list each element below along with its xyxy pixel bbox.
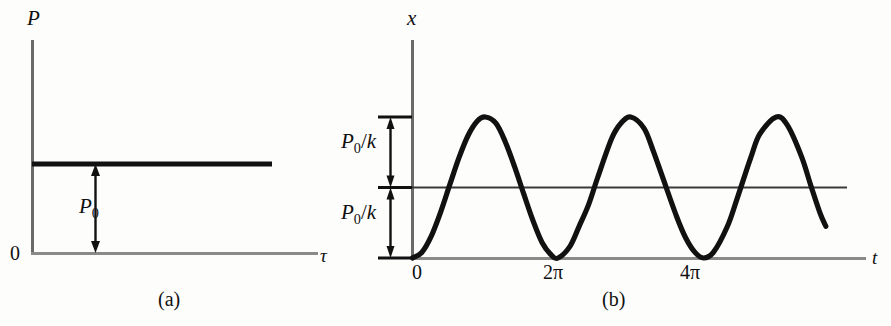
panel-b-xtick-4pi: 4π	[680, 262, 700, 282]
panel-b-graphics	[0, 0, 891, 326]
panel-b-upper-p0-over-k-label: P0/k	[341, 131, 376, 155]
panel-b-lower-k-symbol: k	[367, 200, 376, 224]
panel-b: x t 0 2π 4π P0/k P0/k (b)	[0, 0, 891, 326]
panel-b-x-axis-label: t	[872, 248, 877, 267]
panel-b-upper-p-symbol: P	[341, 129, 354, 153]
panel-b-upper-p-subscript: 0	[354, 140, 361, 156]
panel-b-y-axis-label: x	[407, 8, 416, 29]
panel-b-xtick-2pi: 2π	[543, 262, 563, 282]
panel-b-lower-p-subscript: 0	[354, 211, 361, 227]
panel-b-lower-dimension-arrow	[387, 188, 395, 259]
panel-b-lower-p0-over-k-label: P0/k	[341, 202, 376, 226]
panel-b-upper-k-symbol: k	[367, 129, 376, 153]
panel-b-caption: (b)	[602, 289, 625, 309]
figure-container: P τ 0 P0 (a)	[0, 0, 891, 326]
panel-b-upper-dimension-arrow	[387, 117, 395, 188]
panel-b-y-ticks	[378, 117, 412, 258]
panel-b-origin-label: 0	[412, 262, 422, 282]
panel-b-lower-p-symbol: P	[341, 200, 354, 224]
